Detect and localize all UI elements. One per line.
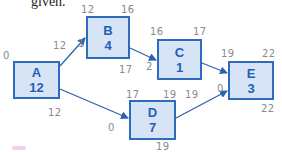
a-early-finish: 12	[53, 40, 67, 51]
d-slack: 0	[108, 122, 115, 133]
node-e-duration: 3	[247, 81, 254, 96]
b-early-start: 12	[81, 4, 95, 15]
d-late-finish-top: 19	[185, 89, 199, 100]
node-c-duration: 1	[176, 60, 183, 75]
b-slack: 1	[78, 38, 85, 49]
e-slack: 0	[217, 83, 224, 94]
e-late-finish: 22	[261, 103, 275, 114]
node-a-duration: 12	[29, 80, 43, 95]
a-early-start: 0	[3, 50, 10, 61]
node-d-label: D	[148, 105, 157, 120]
node-c: C 1	[157, 39, 202, 80]
c-early-finish: 17	[193, 26, 207, 37]
node-a-label: A	[32, 65, 41, 80]
d-early-finish: 19	[163, 89, 177, 100]
c-early-start: 16	[150, 26, 164, 37]
edge-a-d	[60, 89, 128, 118]
d-late-finish: 19	[156, 141, 170, 152]
e-early-finish: 22	[262, 48, 276, 59]
node-b: B 4	[86, 16, 130, 59]
b-early-finish: 16	[121, 4, 135, 15]
b-late-finish: 17	[119, 64, 133, 75]
e-early-start: 19	[221, 48, 235, 59]
a-late-finish: 12	[48, 107, 62, 118]
d-early-start: 17	[126, 89, 140, 100]
node-c-label: C	[175, 45, 184, 60]
pink-mark	[12, 146, 26, 150]
node-d: D 7	[129, 100, 176, 140]
node-b-duration: 4	[104, 38, 111, 53]
edge-d-e	[176, 91, 227, 118]
c-slack: 2	[146, 61, 153, 72]
node-a: A 12	[13, 61, 60, 99]
edge-c-e	[202, 63, 227, 73]
node-b-label: B	[103, 23, 112, 38]
edge-b-c	[130, 48, 156, 60]
node-e: E 3	[228, 61, 274, 100]
node-d-duration: 7	[149, 120, 156, 135]
node-e-label: E	[247, 66, 256, 81]
